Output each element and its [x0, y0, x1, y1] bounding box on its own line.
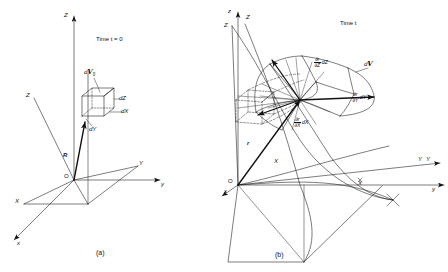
panel-b-derivative-X-denominator: ∂X [294, 123, 301, 128]
panel-a-edge-label-dY: dY [89, 126, 96, 132]
panel-a-linework [14, 16, 160, 240]
panel-a-edge-label-dZ: dZ [119, 95, 126, 101]
panel-a-axis-label-Z-material: Z [26, 92, 30, 98]
panel-a-position-vector-label: R [63, 152, 67, 158]
panel-b-curve-label-Y: Y [418, 156, 422, 162]
panel-b-volume-element-label: dV [364, 60, 373, 67]
panel-b-axis-label-z-spatial: z [228, 8, 231, 14]
panel-b-linework [222, 12, 444, 262]
panel-b-axis-label-x-spatial: x [224, 188, 227, 194]
panel-b-derivative-Z: ∂r ∂Z dZ [314, 54, 328, 70]
panel-a-origin-label: O [64, 173, 69, 179]
panel-b-derivative-X-multiplier: dX [301, 120, 309, 126]
panel-b-time-label: Time t [340, 20, 356, 26]
figure-linework [0, 0, 448, 272]
panel-a-volume-element-label: dV0 [84, 68, 95, 78]
panel-b-derivative-Y-multiplier: dY [359, 95, 367, 101]
panel-b-position-vector-label: r [247, 140, 249, 146]
panel-b-caption: (b) [275, 251, 284, 258]
panel-b-derivative-X-fraction: ∂r ∂X [294, 117, 301, 129]
panel-b-axis-label-Y-material: Y [426, 156, 430, 162]
panel-a-axis-label-x-spatial: x [17, 240, 20, 246]
panel-b-derivative-Y-denominator: ∂Y [352, 98, 359, 103]
panel-a-caption: (a) [96, 249, 105, 256]
panel-a-axis-label-y-spatial: y [161, 181, 164, 187]
panel-b-axis-label-Z-material: Z [224, 22, 228, 28]
panel-a-edge-label-dX: dX [121, 108, 128, 114]
panel-a-volume-subscript: 0 [93, 72, 96, 77]
figure-deformation-of-volume-element: Z Time t = 0 Z Y y X x O R dV0 dZ dX dY … [0, 0, 448, 272]
panel-a-axis-label-Y-material: Y [139, 160, 143, 166]
panel-b-derivative-Y-fraction: ∂r ∂Y [352, 92, 359, 104]
panel-b-curve-label-X: X [274, 158, 278, 164]
panel-b-axis-label-Z-upper-right: Z [246, 14, 250, 20]
panel-b-derivative-Y: ∂r ∂Y dY [352, 89, 367, 105]
panel-b-axis-label-X-material: X [358, 180, 362, 186]
panel-a-axis-label-X-material: X [15, 198, 19, 204]
panel-a-time-label: Time t = 0 [96, 36, 123, 42]
panel-b-derivative-X: ∂r ∂X dX [294, 114, 309, 130]
panel-b-volume-V: V [367, 59, 372, 68]
panel-a-axis-label-z-upper: Z [64, 12, 68, 18]
panel-b-origin-label: O [228, 178, 233, 184]
panel-b-axis-label-y-spatial: y [432, 186, 435, 192]
panel-b-derivative-Z-multiplier: dZ [321, 60, 328, 66]
